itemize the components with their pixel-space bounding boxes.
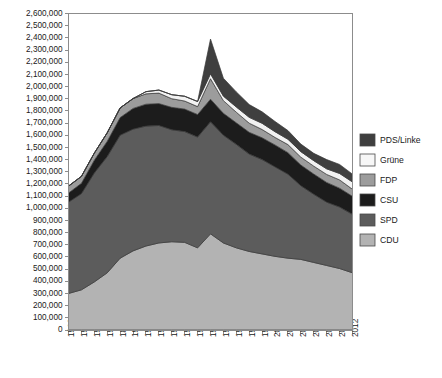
legend-label: SPD bbox=[380, 215, 398, 225]
chart-legend: PDS/LinkeGrüneFDPCSUSPDCDU bbox=[360, 134, 421, 246]
y-axis-label: 1,000,000 bbox=[26, 203, 63, 212]
chart-canvas: 0100,000200,000300,000400,000500,000600,… bbox=[0, 0, 442, 378]
legend-swatch bbox=[360, 194, 375, 206]
y-axis-label: 2,300,000 bbox=[26, 45, 63, 54]
y-axis-tick-group: 0100,000200,000300,000400,000500,000600,… bbox=[26, 9, 68, 335]
legend-label: CSU bbox=[380, 195, 398, 205]
y-axis-label: 1,900,000 bbox=[26, 94, 63, 103]
y-axis-label: 2,200,000 bbox=[26, 57, 63, 66]
y-axis-label: 200,000 bbox=[33, 301, 63, 310]
y-axis-label: 800,000 bbox=[33, 228, 63, 237]
y-axis-label: 600,000 bbox=[33, 252, 63, 261]
legend-swatch bbox=[360, 234, 375, 246]
y-axis-label: 2,500,000 bbox=[26, 21, 63, 30]
y-axis-label: 1,400,000 bbox=[26, 155, 63, 164]
legend-label: Grüne bbox=[380, 155, 404, 165]
y-axis-label: 0 bbox=[58, 325, 63, 334]
y-axis-label: 1,700,000 bbox=[26, 118, 63, 127]
y-axis-label: 2,000,000 bbox=[26, 82, 63, 91]
legend-label: CDU bbox=[380, 235, 399, 245]
y-axis-label: 1,100,000 bbox=[26, 191, 63, 200]
y-axis-label: 300,000 bbox=[33, 289, 63, 298]
legend-swatch bbox=[360, 154, 375, 166]
legend-label: PDS/Linke bbox=[380, 135, 421, 145]
y-axis-label: 900,000 bbox=[33, 216, 63, 225]
legend-swatch bbox=[360, 134, 375, 146]
y-axis-label: 1,200,000 bbox=[26, 179, 63, 188]
y-axis-label: 1,500,000 bbox=[26, 143, 63, 152]
y-axis-label: 400,000 bbox=[33, 276, 63, 285]
y-axis-label: 500,000 bbox=[33, 264, 63, 273]
stacked-area-chart: 0100,000200,000300,000400,000500,000600,… bbox=[0, 0, 442, 378]
y-axis-label: 1,300,000 bbox=[26, 167, 63, 176]
legend-swatch bbox=[360, 174, 375, 186]
y-axis-label: 1,800,000 bbox=[26, 106, 63, 115]
legend-swatch bbox=[360, 214, 375, 226]
y-axis-label: 2,100,000 bbox=[26, 70, 63, 79]
y-axis-label: 700,000 bbox=[33, 240, 63, 249]
y-axis-label: 1,600,000 bbox=[26, 130, 63, 139]
area-series-group bbox=[69, 39, 353, 330]
y-axis-label: 100,000 bbox=[33, 313, 63, 322]
y-axis-label: 2,600,000 bbox=[26, 9, 63, 18]
legend-label: FDP bbox=[380, 175, 397, 185]
y-axis-label: 2,400,000 bbox=[26, 33, 63, 42]
